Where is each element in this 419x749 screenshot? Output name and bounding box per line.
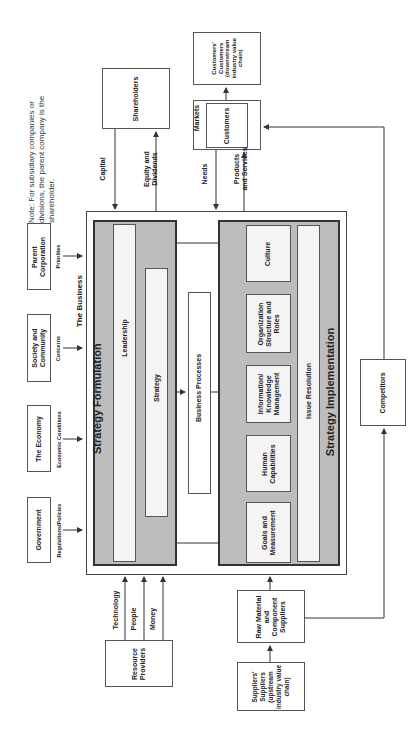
flow-products-label: Products and Services bbox=[233, 147, 248, 190]
note-line: divisions, the parent company is the bbox=[37, 63, 47, 223]
shareholders-label: Shareholders bbox=[132, 76, 140, 121]
flow-equity-label: Equity and Dividends bbox=[143, 151, 158, 187]
human-capabilities-box: Human Capabilities bbox=[246, 435, 291, 492]
suppliers-suppliers-box: Suppliers' Suppliers (upstream industry … bbox=[237, 662, 305, 711]
goals-box: Goals and Measurement bbox=[246, 502, 291, 563]
information-label: Information/ Knowledge Management bbox=[257, 368, 281, 420]
strategy-formulation-title: Strategy Formulation bbox=[91, 344, 105, 454]
competitors-label: Competitors bbox=[379, 372, 387, 413]
issue-resolution-label: Issue Resolution bbox=[305, 363, 313, 419]
customers-label: Customers bbox=[223, 107, 231, 144]
flow-capital: Capital bbox=[99, 154, 107, 184]
note-line: Note: For subsidiary companies or bbox=[27, 63, 37, 223]
government-label: Government bbox=[35, 509, 43, 550]
note-line: shareholder. bbox=[47, 63, 57, 223]
markets-label: Markets bbox=[193, 101, 201, 135]
raw-material-label: Raw Material and Component Suppliers bbox=[255, 592, 287, 642]
leadership-label: Leadership bbox=[121, 319, 129, 356]
society-box: Society and Community bbox=[27, 314, 51, 382]
flow-concerns: Concerns bbox=[55, 329, 62, 369]
customers-customers-box: Customers' Customers (downstream industr… bbox=[193, 32, 261, 85]
business-processes-label: Business Processes bbox=[196, 354, 204, 422]
issue-resolution-box: Issue Resolution bbox=[297, 225, 320, 562]
raw-material-box: Raw Material and Component Suppliers bbox=[237, 590, 305, 643]
economy-label: The Economy bbox=[35, 416, 43, 462]
flow-money: Money bbox=[149, 606, 157, 632]
flow-priorities: Priorities bbox=[55, 237, 62, 277]
strategy-label: Strategy bbox=[153, 373, 161, 401]
parent-corporation-label: Parent Corporation bbox=[31, 234, 47, 280]
culture-label: Culture bbox=[265, 241, 273, 266]
government-box: Government bbox=[27, 497, 51, 563]
human-capabilities-label: Human Capabilities bbox=[261, 439, 277, 489]
flow-regulations: Regulations/Policies bbox=[56, 498, 63, 564]
strategy-implementation-title: Strategy Implementation bbox=[324, 327, 338, 457]
flow-needs: Needs bbox=[201, 162, 209, 186]
organization-label: Organization Structure and Roles bbox=[257, 298, 281, 350]
business-processes-box: Business Processes bbox=[188, 292, 211, 494]
resource-providers-box: Resource Providers bbox=[105, 640, 173, 687]
flow-people: People bbox=[130, 606, 138, 632]
culture-box: Culture bbox=[246, 225, 291, 282]
information-box: Information/ Knowledge Management bbox=[246, 365, 291, 423]
parent-corporation-box: Parent Corporation bbox=[27, 223, 51, 290]
note-text: Note: For subsidiary companies or divisi… bbox=[27, 63, 63, 223]
shareholders-box: Shareholders bbox=[102, 68, 170, 129]
society-label: Society and Community bbox=[31, 323, 47, 373]
suppliers-suppliers-label: Suppliers' Suppliers (upstream industry … bbox=[251, 663, 291, 711]
economy-box: The Economy bbox=[27, 405, 51, 472]
flow-economic-conditions: Economic Conditions bbox=[56, 407, 63, 473]
customers-customers-label: Customers' Customers (downstream industr… bbox=[211, 33, 244, 85]
leadership-box: Leadership bbox=[113, 224, 136, 562]
business-label: The Business bbox=[76, 271, 86, 331]
resource-providers-label: Resource Providers bbox=[131, 644, 147, 684]
strategy-box: Strategy bbox=[145, 268, 168, 517]
organization-box: Organization Structure and Roles bbox=[246, 294, 291, 353]
flow-products: Products and Services bbox=[233, 147, 251, 191]
competitors-box: Competitors bbox=[360, 359, 406, 426]
goals-label: Goals and Measurement bbox=[261, 506, 277, 560]
flow-technology: Technology bbox=[112, 588, 120, 632]
flow-equity: Equity and Dividends bbox=[143, 150, 161, 188]
customers-box: Customers bbox=[206, 103, 248, 148]
